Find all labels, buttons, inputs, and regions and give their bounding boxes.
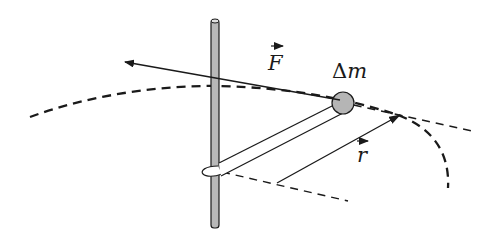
force-label-text: F [267, 51, 284, 75]
delta-symbol: Δ [332, 59, 347, 83]
force-vector-arrow [125, 62, 340, 100]
circular-path-dashed [30, 86, 448, 188]
axle-pole [211, 19, 219, 228]
svg-text:Δm: Δm [332, 59, 367, 83]
mass-symbol: m [347, 59, 367, 83]
force-label: F [267, 46, 284, 75]
tangent-line-dashed [340, 102, 472, 131]
radius-label-text: r [357, 143, 369, 167]
mass-element [332, 92, 354, 114]
radius-label: r [357, 141, 369, 167]
radial-line-dashed [222, 172, 348, 201]
connecting-rod [219, 105, 345, 176]
mass-label: Δm [332, 59, 367, 83]
torque-diagram: F Δm r [0, 0, 503, 248]
